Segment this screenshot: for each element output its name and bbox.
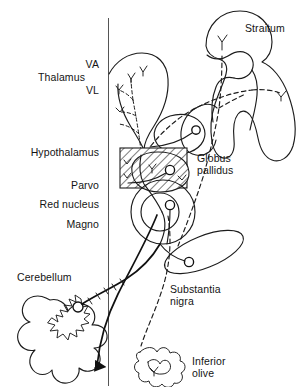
diagram-root: VA Thalamus VL Hypothalamus Parvo Red nu… [0, 0, 305, 387]
label-globus-pallidus-line2: pallidus [197, 164, 267, 176]
label-striatum: Straitum [245, 22, 305, 34]
label-hypothalamus: Hypothalamus [0, 146, 99, 158]
inferior-olive [135, 348, 186, 387]
pallidal-neuron-soma [192, 126, 200, 134]
rubral-neuron-soma [165, 200, 174, 209]
label-substantia-nigra-line1: Substantia [170, 283, 255, 295]
label-cerebellum: Cerebellum [17, 271, 127, 283]
label-inferior-olive-line2: olive [192, 367, 262, 379]
label-va: VA [0, 58, 99, 70]
pallidal-projection-neuron [165, 165, 174, 174]
thalamic-afferent-fibers [116, 66, 147, 151]
label-red-nucleus: Red nucleus [0, 198, 99, 210]
label-magno: Magno [0, 218, 99, 230]
thalamus-outline [109, 53, 174, 156]
label-parvo: Parvo [0, 179, 99, 191]
globus-pallidus-hatched-region [120, 148, 189, 192]
label-globus-pallidus-line1: Globus [197, 152, 267, 164]
substantia-nigra [159, 221, 249, 282]
label-substantia-nigra-line2: nigra [170, 295, 255, 307]
label-vl: VL [0, 84, 99, 96]
label-thalamus: Thalamus [0, 71, 85, 83]
red-nucleus-magnocellular-circle [141, 193, 179, 231]
nigral-neuron-soma [184, 257, 193, 266]
pallidothalamic-pathway [146, 90, 286, 152]
label-inferior-olive-line1: Inferior [192, 355, 262, 367]
cerebellum-outline [18, 295, 107, 383]
substantia-nigra-ellipse [159, 221, 249, 282]
nigrostriatal-pathway [178, 35, 246, 246]
rubro-olivary-pathway [141, 216, 170, 346]
